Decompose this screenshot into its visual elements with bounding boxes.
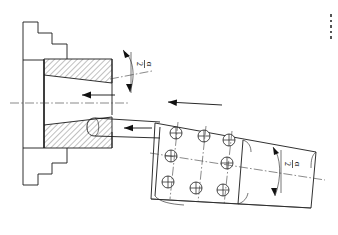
workpiece-section-upper [44,59,112,83]
angle-label-top: α 2 [135,60,156,68]
alpha-symbol-right: α [293,162,303,167]
angle-callout-top: α 2 [110,50,155,93]
angle-label-right: α 2 [283,160,304,168]
coolant-hole [223,134,235,146]
alpha-denominator-top: 2 [135,62,144,66]
alpha-symbol-top: α [145,62,155,67]
coolant-hole [170,127,182,139]
coolant-hole [221,157,233,169]
coolant-hole [198,130,210,142]
conical-workpiece [44,59,112,148]
stepped-chuck-fixture [23,22,67,185]
tool-feed-arrow [124,125,152,131]
coolant-hole [190,182,202,194]
coolant-hole [217,184,229,196]
block-feed-arrow [168,100,222,107]
drawing-canvas: α 2 α 2 [0,0,338,235]
alpha-denominator-right: 2 [283,162,292,166]
coolant-hole [162,176,174,188]
workpiece-section-lower [44,117,112,148]
coolant-hole-group [162,127,235,196]
axial-feed-arrow [82,92,115,99]
scan-edge-artifacts [330,14,332,39]
technical-drawing: α 2 α 2 [0,0,338,235]
angle-callout-right: α 2 [271,147,303,196]
tool-body-center-axis [150,153,325,180]
